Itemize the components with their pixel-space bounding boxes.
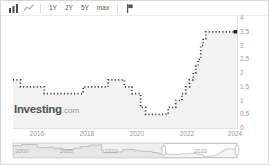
- x-axis-label: 2020: [125, 131, 149, 138]
- flag-icon[interactable]: [124, 3, 135, 13]
- watermark-brand: Investing: [14, 103, 62, 115]
- x-axis-label: 2016: [25, 131, 49, 138]
- watermark-logo: Investing.com: [14, 99, 79, 117]
- x-axis-label: 2024: [223, 131, 247, 138]
- navigator-axis-label: 2010: [99, 148, 123, 154]
- line-chart-icon[interactable]: [23, 3, 34, 13]
- navigator-axis-label: 2005: [55, 148, 79, 154]
- y-axis-label: 4: [240, 15, 244, 22]
- range-button-2y[interactable]: 2Y: [63, 3, 75, 13]
- chart-toolbar: 1Y 2Y 5Y max: [1, 1, 268, 16]
- y-axis-label: 3.5: [240, 29, 249, 36]
- chart-widget: 1Y 2Y 5Y max Investing.com 00.511.522.53…: [0, 0, 269, 165]
- y-axis-label: 3: [240, 43, 244, 50]
- navigator-axis-label: 2020: [188, 148, 212, 154]
- candlestick-chart-glyph: [9, 4, 18, 13]
- x-axis-label: 2018: [75, 131, 99, 138]
- y-axis-label: 0.5: [240, 111, 249, 118]
- range-button-1y[interactable]: 1Y: [47, 3, 59, 13]
- chart-plot-area[interactable]: Investing.com: [1, 17, 269, 165]
- y-axis-label: 2: [240, 70, 244, 77]
- line-chart-glyph: [24, 4, 34, 12]
- range-button-max[interactable]: max: [95, 3, 111, 13]
- x-axis-label: 2022: [175, 131, 199, 138]
- y-axis-label: 1.5: [240, 84, 249, 91]
- range-button-5y[interactable]: 5Y: [79, 3, 91, 13]
- y-axis-label: 1: [240, 98, 244, 105]
- candlestick-chart-icon[interactable]: [8, 3, 19, 13]
- toolbar-divider: [117, 4, 118, 13]
- y-axis-label: 2.5: [240, 56, 249, 63]
- flag-glyph: [126, 4, 133, 13]
- watermark-suffix: .com: [62, 106, 79, 115]
- navigator-axis-label: 2000: [10, 148, 34, 154]
- toolbar-divider: [40, 4, 41, 13]
